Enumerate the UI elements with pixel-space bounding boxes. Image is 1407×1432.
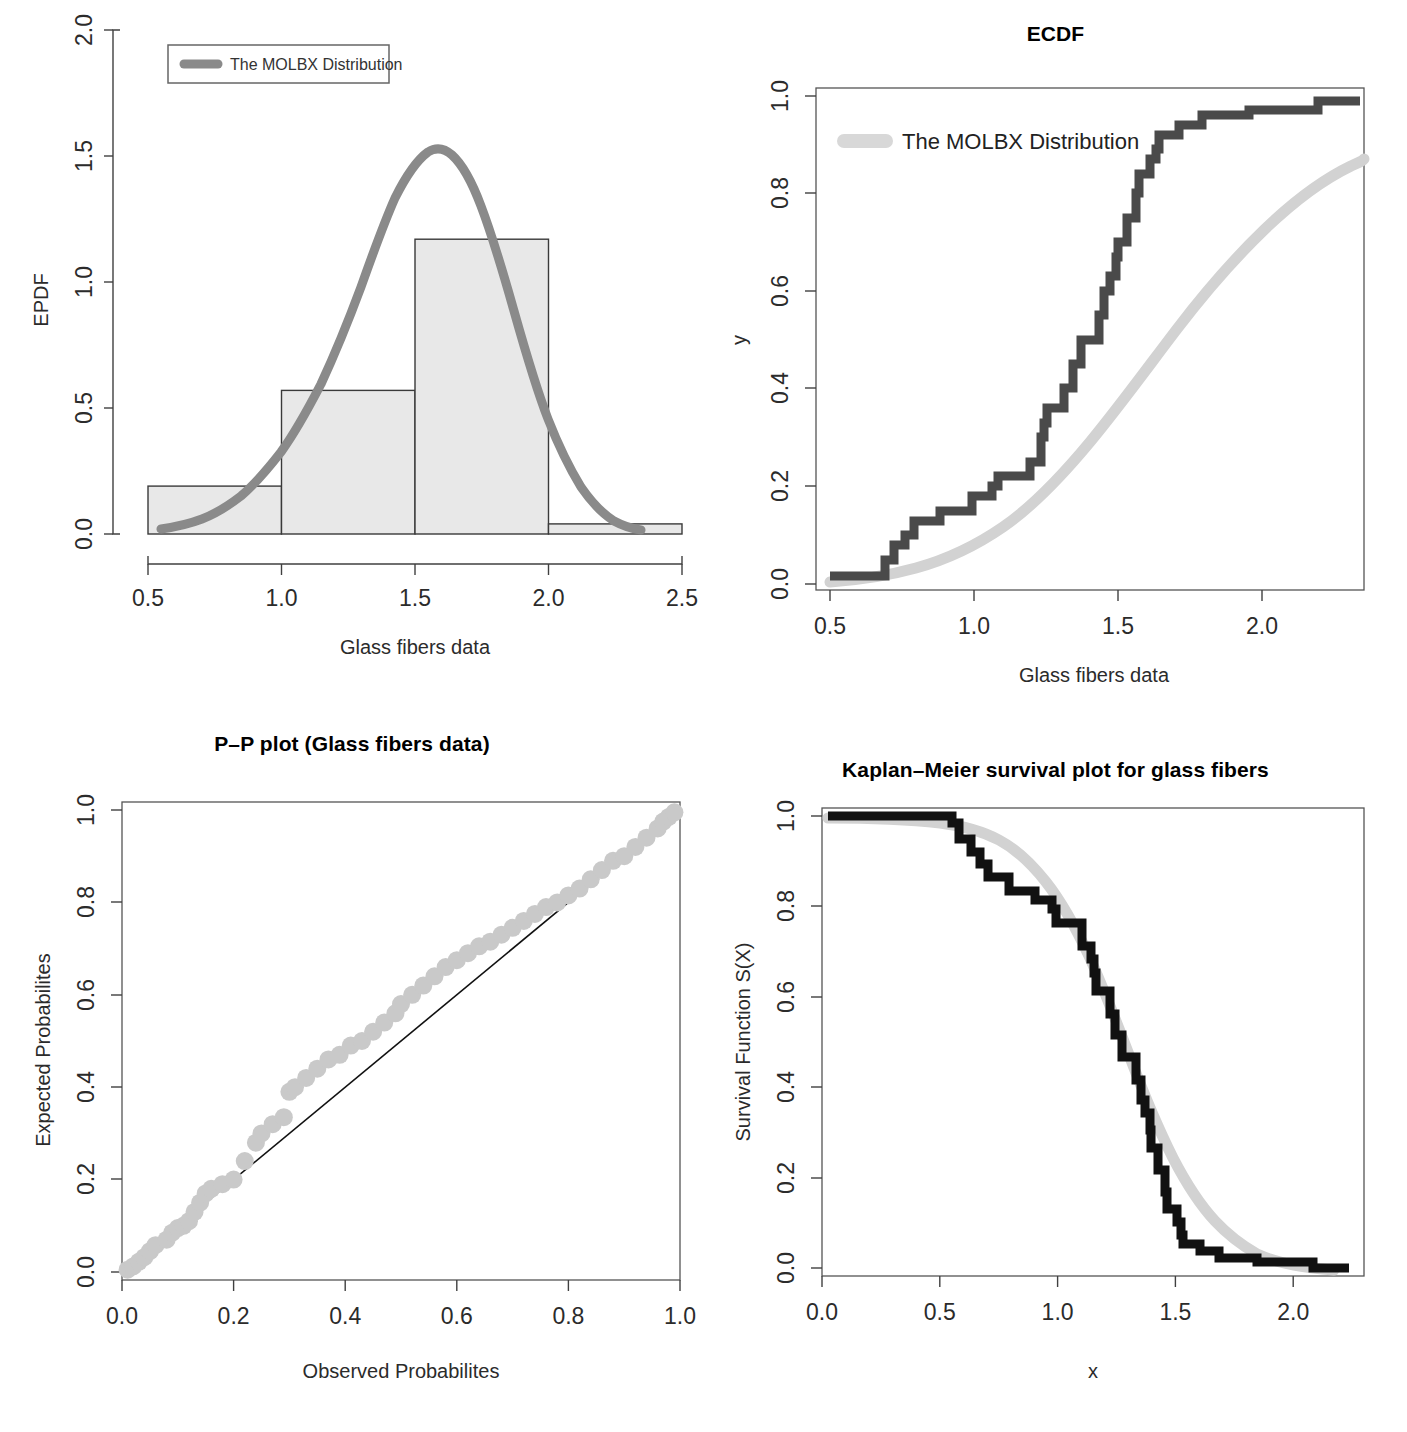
epdf-ytick-3: 1.5 (71, 140, 97, 172)
epdf-xaxis: 0.5 1.0 1.5 2.0 2.5 Glass fibers data (132, 556, 698, 658)
epdf-yaxis: 0.0 0.5 1.0 1.5 2.0 EPDF (30, 14, 120, 550)
epdf-ytick-4: 2.0 (71, 14, 97, 46)
epdf-ylabel: EPDF (30, 273, 52, 326)
ecdf-yaxis: 0.0 0.2 0.4 0.6 0.8 1.0 y (728, 80, 816, 600)
epdf-svg: 0.0 0.5 1.0 1.5 2.0 EPDF (0, 0, 704, 700)
pp-ytick-1: 0.2 (73, 1163, 99, 1195)
ecdf-legend: The MOLBX Distribution (844, 129, 1139, 154)
pp-point (236, 1152, 254, 1170)
pp-xtick-2: 0.4 (329, 1303, 361, 1329)
epdf-histogram-bars (148, 239, 682, 534)
panel-ecdf: ECDF 0.0 0.2 0.4 0.6 0.8 1.0 y (704, 0, 1407, 730)
ecdf-ytick-5: 1.0 (767, 80, 793, 112)
km-ytick-3: 0.6 (773, 981, 799, 1013)
pp-xtick-3: 0.6 (441, 1303, 473, 1329)
ecdf-xaxis: 0.5 1.0 1.5 2.0 Glass fibers data (814, 590, 1278, 686)
pp-point (665, 803, 683, 821)
km-ytick-2: 0.4 (773, 1071, 799, 1103)
km-svg: 0.0 0.2 0.4 0.6 0.8 1.0 Survival Functio… (704, 730, 1407, 1432)
epdf-ytick-1: 0.5 (71, 392, 97, 424)
km-xlabel: x (1088, 1360, 1098, 1382)
epdf-xtick-4: 2.5 (666, 585, 698, 611)
panel-epdf: 0.0 0.5 1.0 1.5 2.0 EPDF (0, 0, 704, 700)
km-ytick-5: 1.0 (773, 800, 799, 832)
epdf-xtick-1: 1.0 (266, 585, 298, 611)
pp-xtick-0: 0.0 (106, 1303, 138, 1329)
epdf-xtick-0: 0.5 (132, 585, 164, 611)
panel-pp: P–P plot (Glass fibers data) 0.0 0.2 0.4… (0, 700, 704, 1432)
ecdf-ytick-3: 0.6 (767, 275, 793, 307)
pp-point (275, 1108, 293, 1126)
pp-ytick-4: 0.8 (73, 886, 99, 918)
km-fitted-curve (828, 818, 1334, 1270)
ecdf-empirical-step (830, 101, 1360, 576)
ecdf-ytick-1: 0.2 (767, 470, 793, 502)
pp-xlabel: Observed Probabilites (303, 1360, 500, 1382)
ecdf-title: ECDF (704, 22, 1407, 46)
km-xtick-2: 1.0 (1042, 1299, 1074, 1325)
km-ytick-1: 0.2 (773, 1162, 799, 1194)
pp-title: P–P plot (Glass fibers data) (0, 732, 704, 756)
ecdf-xtick-0: 0.5 (814, 613, 846, 639)
km-xaxis: 0.0 0.5 1.0 1.5 2.0 x (806, 1276, 1309, 1382)
km-xtick-3: 1.5 (1159, 1299, 1191, 1325)
ecdf-xtick-1: 1.0 (958, 613, 990, 639)
epdf-legend: The MOLBX Distribution (168, 45, 403, 83)
km-ytick-0: 0.0 (773, 1252, 799, 1284)
ecdf-xtick-2: 1.5 (1102, 613, 1134, 639)
km-xtick-1: 0.5 (924, 1299, 956, 1325)
pp-ylabel: Expected Probabilites (32, 953, 54, 1146)
km-ytick-4: 0.8 (773, 890, 799, 922)
km-title: Kaplan–Meier survival plot for glass fib… (704, 758, 1407, 782)
epdf-xtick-3: 2.0 (533, 585, 565, 611)
pp-xtick-5: 1.0 (664, 1303, 696, 1329)
km-xtick-4: 2.0 (1277, 1299, 1309, 1325)
ecdf-ylabel: y (728, 335, 750, 345)
legend-label: The MOLBX Distribution (230, 56, 403, 73)
km-ylabel: Survival Function S(X) (732, 943, 754, 1142)
km-yaxis: 0.0 0.2 0.4 0.6 0.8 1.0 Survival Functio… (732, 800, 822, 1284)
epdf-xtick-2: 1.5 (399, 585, 431, 611)
pp-point (225, 1171, 243, 1189)
ecdf-ytick-0: 0.0 (767, 568, 793, 600)
ecdf-ytick-4: 0.8 (767, 177, 793, 209)
km-plot-frame (822, 808, 1364, 1276)
pp-xtick-1: 0.2 (218, 1303, 250, 1329)
ecdf-ytick-2: 0.4 (767, 372, 793, 404)
pp-xaxis: 0.0 0.2 0.4 0.6 0.8 1.0 Observed Probabi… (106, 1280, 696, 1382)
pp-xtick-4: 0.8 (552, 1303, 584, 1329)
pp-ytick-2: 0.4 (73, 1071, 99, 1103)
histogram-bar (415, 239, 549, 534)
figure-grid: 0.0 0.5 1.0 1.5 2.0 EPDF (0, 0, 1407, 1432)
pp-yaxis: 0.0 0.2 0.4 0.6 0.8 1.0 Expected Probabi… (32, 794, 122, 1288)
pp-ytick-5: 1.0 (73, 794, 99, 826)
legend-label: The MOLBX Distribution (902, 129, 1139, 154)
epdf-ytick-2: 1.0 (71, 266, 97, 298)
ecdf-svg: 0.0 0.2 0.4 0.6 0.8 1.0 y 0.5 1.0 1.5 2 (704, 0, 1407, 730)
epdf-ytick-0: 0.0 (71, 518, 97, 550)
ecdf-xlabel: Glass fibers data (1019, 664, 1170, 686)
km-xtick-0: 0.0 (806, 1299, 838, 1325)
epdf-xlabel: Glass fibers data (340, 636, 491, 658)
panel-km: Kaplan–Meier survival plot for glass fib… (704, 730, 1407, 1432)
pp-ytick-3: 0.6 (73, 979, 99, 1011)
km-step-curve (828, 816, 1349, 1268)
ecdf-xtick-3: 2.0 (1246, 613, 1278, 639)
pp-svg: 0.0 0.2 0.4 0.6 0.8 1.0 Expected Probabi… (0, 700, 704, 1432)
pp-ytick-0: 0.0 (73, 1256, 99, 1288)
